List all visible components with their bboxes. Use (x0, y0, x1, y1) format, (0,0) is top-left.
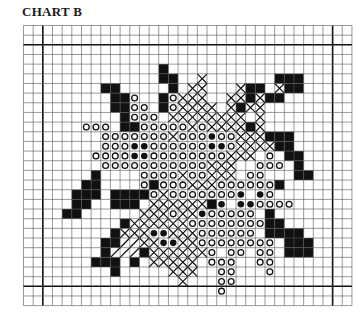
filled-cell (284, 228, 294, 238)
open-circle-icon (267, 163, 273, 169)
open-circle-icon (151, 143, 157, 149)
open-circle-icon (267, 201, 273, 207)
filled-cell (284, 132, 294, 142)
filled-cell (265, 93, 275, 103)
filled-cell (284, 141, 294, 151)
chart-svg (23, 25, 353, 307)
open-circle-icon (180, 134, 186, 140)
open-circle-icon (141, 172, 147, 178)
open-circle-icon (228, 259, 234, 265)
solid-dot-icon (209, 133, 216, 140)
filled-cell (294, 83, 304, 93)
solid-dot-icon (218, 201, 225, 208)
open-circle-icon (161, 153, 167, 159)
open-circle-icon (93, 153, 99, 159)
filled-cell (159, 103, 169, 113)
open-circle-icon (199, 153, 205, 159)
filled-cell (304, 248, 314, 258)
open-circle-icon (277, 201, 283, 207)
solid-dot-icon (160, 230, 167, 237)
open-circle-icon (219, 192, 225, 198)
open-circle-icon (103, 163, 109, 169)
open-circle-icon (180, 192, 186, 198)
open-circle-icon (219, 240, 225, 246)
filled-cell (294, 74, 304, 84)
filled-cell (120, 122, 130, 132)
open-circle-icon (209, 211, 215, 217)
open-circle-icon (132, 95, 138, 101)
open-circle-icon (161, 182, 167, 188)
open-circle-icon (238, 211, 244, 217)
filled-cell (120, 190, 130, 200)
open-circle-icon (161, 172, 167, 178)
filled-cell (139, 190, 149, 200)
open-circle-icon (180, 143, 186, 149)
open-circle-icon (103, 153, 109, 159)
filled-cell (149, 180, 159, 190)
filled-cell (120, 112, 130, 122)
open-circle-icon (219, 153, 225, 159)
open-circle-icon (141, 182, 147, 188)
open-circle-icon (132, 163, 138, 169)
filled-cell (120, 199, 130, 209)
open-circle-icon (161, 134, 167, 140)
open-circle-icon (199, 134, 205, 140)
open-circle-icon (141, 163, 147, 169)
open-circle-icon (199, 192, 205, 198)
open-circle-icon (228, 134, 234, 140)
filled-cell (72, 190, 82, 200)
filled-cell (159, 93, 169, 103)
solid-dot-icon (131, 153, 138, 160)
open-circle-icon (238, 250, 244, 256)
open-circle-icon (141, 124, 147, 130)
open-circle-icon (209, 259, 215, 265)
open-circle-icon (170, 211, 176, 217)
open-circle-icon (170, 172, 176, 178)
open-circle-icon (190, 134, 196, 140)
open-circle-icon (112, 143, 118, 149)
open-circle-icon (219, 230, 225, 236)
open-circle-icon (190, 221, 196, 227)
solid-dot-icon (238, 201, 245, 208)
open-circle-icon (199, 221, 205, 227)
open-circle-icon (257, 172, 263, 178)
open-circle-icon (199, 172, 205, 178)
open-circle-icon (228, 211, 234, 217)
open-circle-icon (199, 240, 205, 246)
filled-cell (91, 180, 101, 190)
open-circle-icon (170, 153, 176, 159)
open-circle-icon (199, 143, 205, 149)
filled-cell (294, 238, 304, 248)
open-circle-icon (151, 153, 157, 159)
filled-cell (265, 219, 275, 229)
filled-cell (275, 180, 285, 190)
filled-cell (130, 122, 140, 132)
open-circle-icon (180, 182, 186, 188)
open-circle-icon (122, 134, 128, 140)
filled-cell (91, 170, 101, 180)
solid-dot-icon (131, 143, 138, 150)
open-circle-icon (219, 279, 225, 285)
open-circle-icon (209, 192, 215, 198)
open-circle-icon (161, 163, 167, 169)
open-circle-icon (132, 105, 138, 111)
filled-cell (284, 238, 294, 248)
open-circle-icon (122, 153, 128, 159)
open-circle-icon (151, 192, 157, 198)
filled-cell (101, 83, 111, 93)
open-circle-icon (170, 124, 176, 130)
solid-dot-icon (247, 201, 254, 208)
filled-cell (294, 228, 304, 238)
filled-cell (265, 209, 275, 219)
filled-cell (139, 248, 149, 258)
open-circle-icon (199, 124, 205, 130)
open-circle-icon (180, 153, 186, 159)
open-circle-icon (170, 192, 176, 198)
filled-cell (265, 228, 275, 238)
open-circle-icon (248, 240, 254, 246)
diagonal-hatch-icon (120, 248, 130, 258)
open-circle-icon (161, 143, 167, 149)
filled-cell (265, 132, 275, 142)
open-circle-icon (122, 143, 128, 149)
filled-cell (110, 228, 120, 238)
